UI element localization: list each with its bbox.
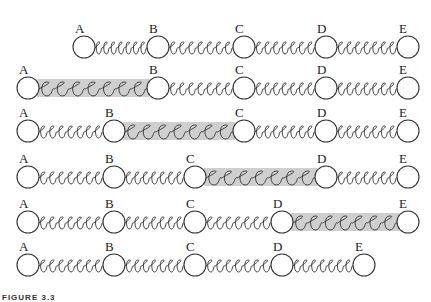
ball-c [233,36,255,58]
spring-icon [39,172,103,184]
ball-label-c: C [186,239,195,254]
spring-row-5: ABCDE [17,196,419,233]
spring-icon [337,126,397,138]
ball-c [233,77,255,99]
ball-label-e: E [399,105,407,120]
spring-icon [39,217,103,229]
ball-label-b: B [105,239,114,254]
ball-label-e: E [399,151,407,166]
spring-icon [255,83,315,95]
ball-label-b: B [105,196,114,211]
ball-label-d: D [317,21,326,36]
ball-e [397,166,419,188]
spring-icon [206,260,271,272]
spring-icon [125,172,184,184]
spring-icon [337,42,397,54]
ball-a [17,254,39,276]
ball-a [17,77,39,99]
spring-row-2: ABCDE [17,62,419,99]
spring-icon [39,260,103,272]
ball-d [315,120,337,142]
spring-row-4: ABCDE [17,151,419,188]
ball-label-c: C [235,105,244,120]
spring-icon [337,83,397,95]
ball-label-b: B [149,62,158,77]
ball-d [315,77,337,99]
spring-icon [169,42,233,54]
ball-label-b: B [105,105,114,120]
ball-d [315,166,337,188]
ball-label-d: D [273,196,282,211]
ball-label-c: C [186,196,195,211]
spring-row-1: ABCDE [73,21,419,58]
spring-icon [255,42,315,54]
ball-b [103,254,125,276]
ball-b [147,77,169,99]
ball-label-c: C [235,21,244,36]
ball-label-d: D [317,62,326,77]
spring-icon [206,217,271,229]
ball-label-b: B [105,151,114,166]
spring-icon [125,260,184,272]
ball-label-a: A [75,21,85,36]
ball-d [271,254,293,276]
ball-label-e: E [355,239,363,254]
ball-label-e: E [399,21,407,36]
ball-c [184,211,206,233]
ball-label-d: D [317,105,326,120]
ball-b [103,166,125,188]
ball-label-e: E [399,196,407,211]
ball-label-a: A [19,105,29,120]
ball-e [397,211,419,233]
ball-label-d: D [273,239,282,254]
ball-a [17,120,39,142]
ball-b [103,211,125,233]
ball-e [353,254,375,276]
ball-e [397,36,419,58]
ball-label-a: A [19,151,29,166]
ball-b [147,36,169,58]
ball-a [17,211,39,233]
ball-label-d: D [317,151,326,166]
ball-label-a: A [19,196,29,211]
ball-d [315,36,337,58]
spring-row-6: ABCDE [17,239,375,276]
ball-a [73,36,95,58]
ball-label-a: A [19,62,29,77]
spring-icon [293,260,353,272]
ball-d [271,211,293,233]
ball-c [233,120,255,142]
spring-icon [337,172,397,184]
ball-label-b: B [149,21,158,36]
ball-e [397,77,419,99]
spring-icon [95,42,147,54]
spring-icon [169,83,233,95]
spring-icon [255,126,315,138]
spring-row-3: ABCDE [17,105,419,142]
ball-label-a: A [19,239,29,254]
ball-c [184,254,206,276]
ball-label-c: C [235,62,244,77]
ball-label-e: E [399,62,407,77]
spring-ball-diagram: ABCDEABCDEABCDEABCDEABCDEABCDE [0,0,431,302]
ball-a [17,166,39,188]
spring-icon [39,126,103,138]
ball-b [103,120,125,142]
ball-e [397,120,419,142]
ball-c [184,166,206,188]
spring-icon [125,217,184,229]
ball-label-c: C [186,151,195,166]
